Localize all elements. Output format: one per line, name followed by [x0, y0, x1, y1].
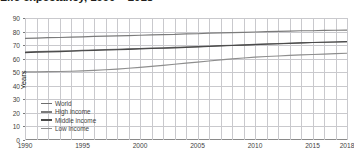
x-axis-tick-label: 2000 [133, 142, 148, 149]
series-line-low-income [25, 53, 347, 72]
y-axis-tick-label: 30 [13, 96, 20, 103]
legend-swatch-icon [41, 111, 52, 113]
legend-item-label: World [55, 100, 72, 107]
x-axis-tick-label: 1995 [75, 142, 90, 149]
legend-item-label: Low income [55, 125, 89, 132]
x-axis-tick-label: 2018 [340, 142, 354, 149]
x-axis-tick-label: 2010 [248, 142, 263, 149]
chart-legend: WorldHigh incomeMiddle incomeLow income [41, 100, 96, 132]
y-axis-tick-mark [23, 32, 26, 33]
y-axis-tick-label: 10 [13, 123, 20, 130]
legend-item: Middle income [41, 117, 96, 124]
legend-item: World [41, 100, 96, 107]
y-axis-tick-mark [23, 99, 26, 100]
x-axis-tick-label: 1990 [18, 142, 33, 149]
y-axis-tick-mark [23, 140, 26, 141]
y-axis-tick-mark [23, 126, 26, 127]
x-axis-tick-label: 2005 [190, 142, 205, 149]
series-line-middle-income [25, 42, 347, 53]
y-axis-tick-mark [23, 45, 26, 46]
y-axis-label: Years [19, 70, 28, 89]
legend-swatch-icon [41, 119, 52, 121]
y-axis-tick-label: 70 [13, 42, 20, 49]
chart-title: Life expectancy, 1990 – 2018 [0, 0, 153, 3]
legend-swatch-icon [41, 128, 52, 130]
legend-swatch-icon [41, 103, 52, 105]
legend-item: High income [41, 108, 96, 115]
series-line-high-income [25, 30, 347, 38]
x-axis-tick-label: 2015 [305, 142, 320, 149]
vertical-gridline [347, 18, 348, 140]
y-axis-tick-mark [23, 113, 26, 114]
legend-item-label: Middle income [55, 117, 96, 124]
y-axis-tick-mark [23, 18, 26, 19]
y-axis-tick-label: 80 [13, 28, 20, 35]
legend-item: Low income [41, 125, 96, 132]
y-axis-tick-label: 60 [13, 55, 20, 62]
y-axis-tick-label: 90 [13, 15, 20, 22]
y-axis-tick-label: 20 [13, 109, 20, 116]
y-axis-tick-mark [23, 59, 26, 60]
legend-item-label: High income [55, 108, 91, 115]
